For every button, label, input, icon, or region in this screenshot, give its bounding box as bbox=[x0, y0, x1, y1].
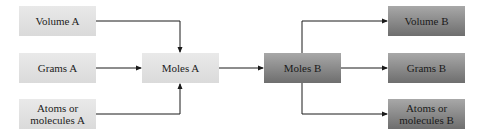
node-label-line1: Atoms or bbox=[37, 102, 78, 114]
flowchart-canvas: Volume A Grams A Atoms or molecules A Mo… bbox=[0, 0, 484, 139]
node-label: Moles A bbox=[162, 62, 200, 74]
node-label-line2: molecules A bbox=[30, 114, 85, 126]
node-moles-b: Moles B bbox=[264, 53, 341, 83]
node-label-line2: molecules B bbox=[399, 114, 454, 126]
node-grams-b: Grams B bbox=[388, 53, 465, 83]
node-moles-a: Moles A bbox=[142, 53, 219, 83]
node-label-line1: Atoms or bbox=[406, 102, 447, 114]
node-label: Volume B bbox=[404, 15, 448, 27]
arrow-atoms-a-to-moles-a bbox=[96, 84, 180, 114]
node-label: Grams A bbox=[38, 62, 77, 74]
arrow-moles-b-to-atoms-b bbox=[302, 83, 387, 114]
arrow-volume-a-to-moles-a bbox=[96, 21, 180, 52]
node-label: Moles B bbox=[284, 62, 322, 74]
node-label: Grams B bbox=[407, 62, 446, 74]
node-volume-b: Volume B bbox=[388, 6, 465, 36]
node-atoms-b: Atoms or molecules B bbox=[388, 99, 465, 129]
node-grams-a: Grams A bbox=[19, 53, 96, 83]
node-atoms-a: Atoms or molecules A bbox=[19, 99, 96, 129]
node-label: Volume A bbox=[35, 15, 79, 27]
arrow-moles-b-to-volume-b bbox=[302, 21, 387, 53]
node-volume-a: Volume A bbox=[19, 6, 96, 36]
